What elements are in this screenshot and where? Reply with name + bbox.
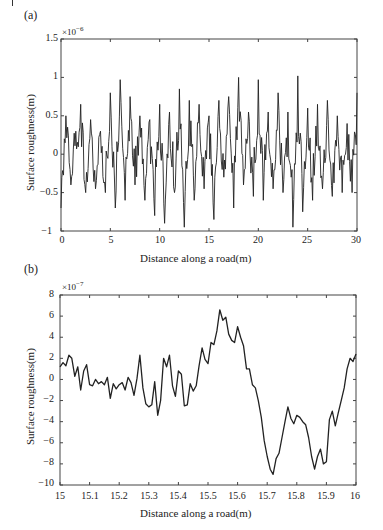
data-line-b: [60, 310, 356, 475]
data-line-a: [61, 76, 357, 227]
plot-canvas: [0, 0, 383, 530]
